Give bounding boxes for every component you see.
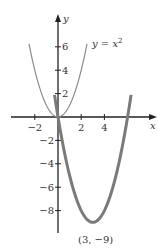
y-tick-label: 4: [62, 65, 68, 76]
y-tick-label: −8: [39, 205, 54, 216]
y-tick-label: −6: [39, 182, 54, 193]
y-axis-label: y: [62, 13, 69, 24]
y-ticks: 642−2−4−6−8: [39, 41, 68, 216]
y-tick-label: 2: [62, 88, 68, 99]
x-tick-label: 4: [101, 122, 107, 133]
y-tick-label: −2: [39, 135, 54, 146]
x-axis-label: x: [150, 120, 156, 131]
y-tick-label: −4: [39, 158, 54, 169]
vertex-label: (3, −9): [78, 234, 113, 245]
y-tick-label: 6: [62, 41, 68, 52]
x-tick-label: −2: [27, 122, 42, 133]
curve-y-equals-x-squared-minus-6x: [55, 95, 132, 222]
x-tick-label: 2: [78, 122, 84, 133]
y-axis-arrow-icon: [55, 14, 61, 22]
curve-label-x-squared: y = x2: [91, 37, 123, 49]
chart: x y −224 642−2−4−6−8 y = x2 (3, −9): [0, 0, 168, 248]
